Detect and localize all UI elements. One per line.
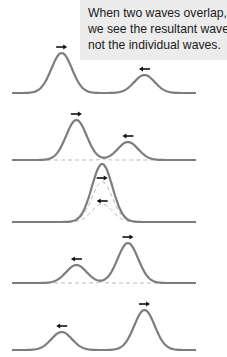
wave-superposition-diagram bbox=[0, 0, 227, 357]
resultant-wave bbox=[12, 243, 196, 283]
arrow-right-icon bbox=[129, 234, 133, 239]
arrow-right-icon bbox=[78, 111, 82, 116]
arrow-left-icon bbox=[139, 66, 143, 71]
component-pulse-dashed bbox=[12, 243, 196, 283]
arrow-left-icon bbox=[71, 256, 75, 261]
resultant-wave bbox=[12, 120, 196, 160]
arrow-left-icon bbox=[122, 133, 126, 138]
component-pulse-dashed bbox=[12, 120, 196, 160]
resultant-wave bbox=[12, 310, 196, 350]
arrow-right-icon bbox=[63, 44, 67, 49]
resultant-wave bbox=[12, 164, 196, 222]
arrow-right-icon bbox=[146, 301, 150, 306]
component-pulse-dashed bbox=[12, 204, 196, 222]
resultant-wave bbox=[12, 53, 196, 93]
arrow-left-icon bbox=[56, 323, 60, 328]
component-pulse-dashed bbox=[12, 182, 196, 222]
arrow-left-icon bbox=[97, 198, 101, 203]
arrow-right-icon bbox=[104, 175, 108, 180]
